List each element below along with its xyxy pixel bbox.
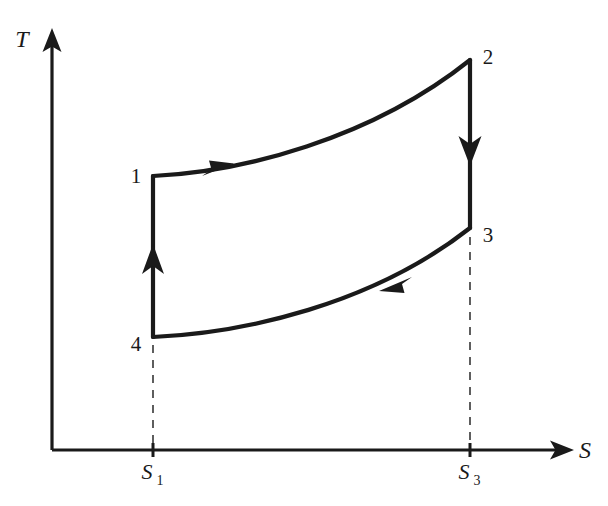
axes-group bbox=[43, 28, 575, 460]
ts-diagram-figure: T S S 1 S 3 1 2 3 bbox=[0, 0, 608, 506]
ts-diagram-canvas: T S S 1 S 3 1 2 3 bbox=[0, 0, 608, 506]
x-tick-s3-label: S bbox=[459, 459, 470, 484]
state-label-2: 2 bbox=[483, 45, 494, 69]
process-3-to-4-curve bbox=[153, 228, 470, 337]
process-1-to-2-curve bbox=[153, 60, 470, 176]
state-label-4: 4 bbox=[131, 332, 142, 356]
y-axis-title: T bbox=[15, 26, 30, 52]
thermodynamic-cycle-path bbox=[153, 60, 470, 337]
x-tick-s1-label: S bbox=[142, 459, 153, 484]
x-tick-s3-subscript: 3 bbox=[474, 473, 481, 488]
x-tick-s1-subscript: 1 bbox=[157, 473, 164, 488]
x-axis-title: S bbox=[579, 437, 591, 463]
state-label-1: 1 bbox=[131, 164, 142, 188]
state-label-3: 3 bbox=[483, 223, 494, 247]
